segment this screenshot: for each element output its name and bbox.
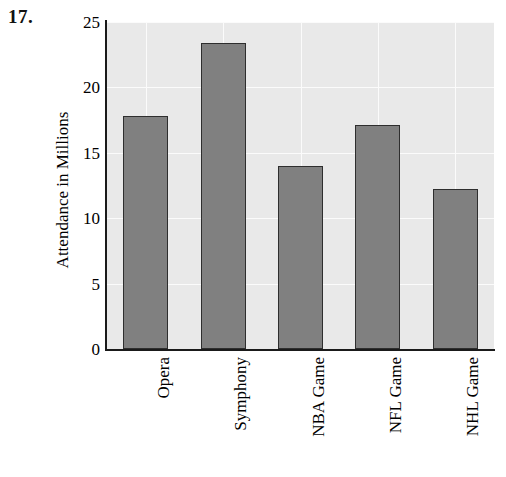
x-axis-tick-labels: OperaSymphonyNBA GameNFL GameNHL Game: [107, 351, 494, 477]
bar-chart-figure: 17. Attendance in Millions 0510152025 Op…: [0, 0, 506, 477]
y-tick-label: 5: [66, 275, 100, 292]
y-axis-tick-labels: 0510152025: [66, 0, 100, 477]
x-tick-label: NBA Game: [309, 357, 329, 437]
bar-nfl-game: [355, 125, 400, 349]
x-tick-label: Symphony: [231, 357, 251, 431]
x-tick-label: NHL Game: [463, 357, 483, 436]
x-tick-label: NFL Game: [386, 357, 406, 433]
bar-symphony: [201, 43, 246, 349]
y-tick-label: 25: [66, 14, 100, 31]
bar-nba-game: [278, 166, 323, 349]
y-tick-label: 20: [66, 79, 100, 96]
plot-area: [107, 22, 494, 349]
bar-opera: [123, 116, 168, 349]
y-tick-label: 10: [66, 210, 100, 227]
y-tick-label: 15: [66, 144, 100, 161]
x-tick-label: Opera: [154, 357, 174, 399]
bar-nhl-game: [433, 189, 478, 349]
problem-number: 17.: [8, 6, 33, 28]
y-tick-label: 0: [66, 341, 100, 358]
